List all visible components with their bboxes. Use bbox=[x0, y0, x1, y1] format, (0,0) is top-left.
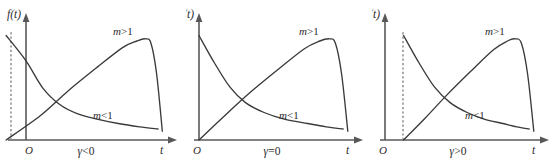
x-axis-label: t bbox=[346, 144, 350, 156]
axes-group-0 bbox=[8, 13, 177, 143]
series-label-m-less-than-1: m<1 bbox=[279, 109, 299, 121]
curve-m-less-than-1 bbox=[6, 36, 158, 130]
plot-svg-1: f(t) t O m>1 m<1 γ=0 bbox=[186, 0, 373, 167]
chart-panel-gamma-zero: f(t) t O m>1 m<1 γ=0 bbox=[186, 0, 373, 167]
x-axis-label: t bbox=[532, 144, 536, 156]
x-axis-label: t bbox=[160, 144, 164, 156]
origin-label: O bbox=[379, 144, 387, 156]
curve-m-less-than-1 bbox=[199, 36, 343, 130]
chart-panel-gamma-negative: f(t) t O m>1 m<1 γ<0 bbox=[0, 0, 187, 167]
origin-label: O bbox=[193, 144, 201, 156]
condition-label: γ<0 bbox=[78, 145, 95, 158]
x-axis-arrowhead bbox=[354, 137, 363, 144]
series-label-m-greater-than-1: m>1 bbox=[485, 25, 505, 37]
plot-svg-2: f(t) t O m>1 m<1 γ>0 bbox=[372, 0, 559, 167]
weibull-hazard-figure: f(t) t O m>1 m<1 γ<0 bbox=[0, 0, 560, 167]
y-axis-arrowhead bbox=[382, 13, 389, 22]
curve-m-greater-than-1 bbox=[6, 39, 162, 140]
plot-svg-0: f(t) t O m>1 m<1 γ<0 bbox=[0, 0, 187, 167]
series-label-m-greater-than-1: m>1 bbox=[299, 25, 319, 37]
curve-m-greater-than-1 bbox=[199, 39, 348, 140]
series-label-m-less-than-1: m<1 bbox=[93, 109, 113, 121]
origin-label: O bbox=[25, 144, 33, 156]
curve-m-greater-than-1 bbox=[404, 39, 534, 140]
series-label-m-greater-than-1: m>1 bbox=[113, 25, 133, 37]
y-axis-label: f(t) bbox=[372, 8, 380, 21]
y-axis-label: f(t) bbox=[7, 8, 21, 21]
y-axis-arrowhead bbox=[23, 13, 30, 22]
x-axis-arrowhead bbox=[540, 137, 549, 144]
axes-group-1 bbox=[194, 13, 363, 143]
series-label-m-less-than-1: m<1 bbox=[465, 109, 485, 121]
x-axis-arrowhead bbox=[168, 137, 177, 144]
condition-label: γ=0 bbox=[264, 145, 281, 158]
y-axis-label: f(t) bbox=[186, 8, 194, 21]
y-axis-arrowhead bbox=[196, 13, 203, 22]
chart-panel-gamma-positive: f(t) t O m>1 m<1 γ>0 bbox=[372, 0, 559, 167]
condition-label: γ>0 bbox=[450, 145, 467, 158]
